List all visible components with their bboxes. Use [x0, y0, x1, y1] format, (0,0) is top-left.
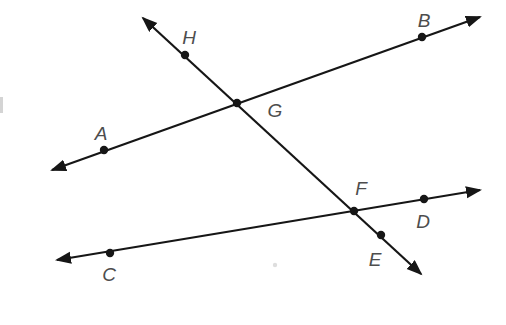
point-D-dot	[420, 195, 428, 203]
point-H-label: H	[182, 27, 196, 48]
geometry-diagram: HBGAFDEC	[0, 0, 506, 325]
point-G-label: G	[268, 100, 283, 121]
point-B-label: B	[418, 10, 431, 31]
point-E-label: E	[369, 249, 382, 270]
diagram-canvas: HBGAFDEC	[0, 0, 506, 325]
point-C-dot	[106, 249, 114, 257]
point-H-dot	[181, 51, 189, 59]
point-G-dot	[233, 99, 241, 107]
point-B-dot	[418, 33, 426, 41]
line-AB	[52, 17, 480, 170]
point-A-dot	[100, 146, 108, 154]
point-D-label: D	[416, 211, 430, 232]
scan-speck	[273, 263, 277, 267]
point-C-label: C	[102, 264, 116, 285]
edge-scan-streak	[0, 97, 3, 113]
point-A-label: A	[94, 123, 108, 144]
point-F-dot	[350, 207, 358, 215]
point-E-dot	[377, 231, 385, 239]
point-F-label: F	[355, 178, 368, 199]
